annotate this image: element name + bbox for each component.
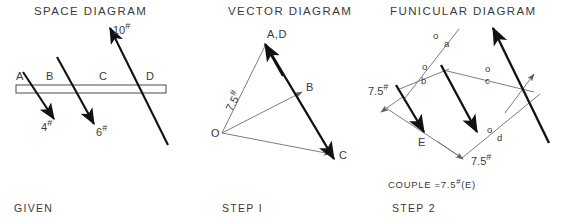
funicular-diagram-caption: STEP 2 [392,203,436,214]
funicular-load-6 [441,65,477,132]
funicular-ray-od-lower: d [497,133,503,143]
beam-label-d: D [146,71,154,82]
funicular-couple-force-left-value: 7.5 [368,85,383,97]
load-label-10-unit: # [125,21,130,31]
funicular-diagram-title: FUNICULAR DIAGRAM [390,6,536,18]
funicular-ray-oc-lower: c [485,76,490,86]
vector-point-b: B [306,82,314,93]
couple-result-suffix: (E) [461,179,476,190]
vector-point-ad: A,D [267,29,287,40]
funicular-couple-force-bottom-value: 7.5 [471,155,486,167]
couple-force-left-arrow [381,96,404,112]
beam-label-b: B [46,71,54,82]
funicular-couple-force-bottom-unit: # [486,152,491,162]
couple-force-bottom-arrow [437,141,463,159]
funicular-ray-ob-lower: b [421,76,427,86]
load-label-4-unit: # [47,118,52,128]
vector-diagram-caption: STEP I [222,203,263,214]
beam-label-c: C [99,71,107,82]
funicular-couple-force-bottom: 7.5# [471,156,491,167]
graphic-statics-figure: SPACE DIAGRAM VECTOR DIAGRAM FUNICULAR D… [0,0,570,222]
couple-result-prefix: COUPLE = [388,179,441,190]
load-label-10: 10# [113,25,130,36]
space-diagram-title: SPACE DIAGRAM [34,6,147,18]
funicular-diagram-graphics [381,28,549,159]
funicular-ray-oa-upper: o [433,31,439,41]
load-label-10-value: 10 [113,24,125,36]
funicular-couple-force-left: 7.5# [368,86,388,97]
vector-force-down-c [266,45,334,159]
beam-member [16,85,166,93]
funicular-ray-oc-upper: o [485,64,491,74]
load-label-6-unit: # [102,123,107,133]
space-diagram-graphics [16,28,168,145]
couple-result-magnitude: 7.5 [441,179,456,190]
funicular-ray-oa-lower: a [444,39,450,49]
funicular-couple-force-left-unit: # [383,82,388,92]
load-label-4: 4# [41,122,52,133]
space-diagram-caption: GIVEN [14,203,53,214]
string-o-a [405,29,459,98]
ray-o-c [222,133,331,154]
vector-diagram-title: VECTOR DIAGRAM [228,6,352,18]
funicular-ray-od-upper: o [487,125,493,135]
funicular-arm-label: E [418,137,426,148]
load-label-6: 6# [96,127,107,138]
funicular-ray-ob-upper: o [422,62,428,72]
vector-point-c: C [339,150,347,161]
vector-pole-o: O [211,128,220,139]
couple-result-text: COUPLE =7.5#(E) [388,180,476,190]
beam-label-a: A [16,71,24,82]
